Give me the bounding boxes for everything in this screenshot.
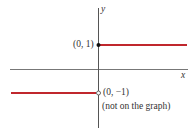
closed-point (97, 43, 101, 47)
x-axis-label: x (181, 71, 185, 81)
open-point-note: (not on the graph) (102, 102, 170, 112)
graph-canvas (0, 0, 195, 139)
closed-point-label: (0, 1) (73, 40, 94, 50)
open-point (97, 91, 101, 95)
open-point-label: (0, −1) (103, 88, 129, 98)
y-axis-label: y (101, 5, 105, 15)
